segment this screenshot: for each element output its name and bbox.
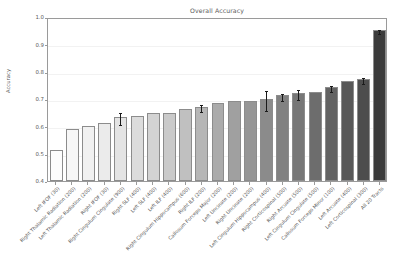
bar: [212, 103, 225, 181]
error-bar: [120, 113, 121, 125]
y-tick-label: 0.7: [0, 97, 44, 102]
bar: [163, 113, 176, 181]
error-bar: [282, 94, 283, 102]
plot-area: [47, 18, 387, 182]
bar: [276, 95, 289, 181]
x-tick-mark: [347, 182, 348, 185]
bar: [131, 116, 144, 181]
error-bar: [266, 91, 267, 110]
error-bar: [298, 90, 299, 100]
error-bar-cap: [362, 78, 365, 79]
x-tick-mark: [185, 182, 186, 185]
error-bar-cap: [281, 94, 284, 95]
gridline: [48, 74, 386, 75]
bar: [195, 107, 208, 181]
y-tick-label: 0.6: [0, 125, 44, 130]
bar: [292, 93, 305, 181]
error-bar-cap: [297, 90, 300, 91]
error-bar-cap: [297, 100, 300, 101]
y-tick-label: 0.4: [0, 179, 44, 184]
y-tick-mark: [45, 182, 48, 183]
bar: [66, 129, 79, 181]
bar: [325, 87, 338, 181]
y-tick-label: 1.0: [0, 15, 44, 20]
error-bar-cap: [119, 125, 122, 126]
bar: [373, 30, 386, 181]
bar: [147, 113, 160, 181]
error-bar-cap: [378, 34, 381, 35]
bar: [341, 81, 354, 181]
error-bar-cap: [378, 30, 381, 31]
gridline: [48, 46, 386, 47]
bar: [228, 101, 241, 181]
bar: [179, 109, 192, 181]
error-bar-cap: [330, 92, 333, 93]
error-bar-cap: [265, 91, 268, 92]
error-bar-cap: [200, 105, 203, 106]
x-tick-mark: [266, 182, 267, 185]
bar: [357, 79, 370, 181]
y-tick-label: 0.5: [0, 152, 44, 157]
bar: [82, 126, 95, 181]
error-bar-cap: [200, 112, 203, 113]
chart-title: Overall Accuracy: [47, 7, 387, 14]
bar: [114, 117, 127, 181]
error-bar-cap: [330, 86, 333, 87]
bar: [309, 92, 322, 181]
error-bar-cap: [281, 101, 284, 102]
error-bar-cap: [119, 113, 122, 114]
bar: [50, 150, 63, 181]
error-bar-cap: [265, 111, 268, 112]
error-bar-cap: [362, 84, 365, 85]
bar: [98, 123, 111, 181]
bar: [244, 101, 257, 181]
y-tick-label: 0.8: [0, 70, 44, 75]
y-tick-label: 0.9: [0, 43, 44, 48]
chart-figure: Overall Accuracy Accuracy 0.40.50.60.70.…: [0, 0, 407, 270]
